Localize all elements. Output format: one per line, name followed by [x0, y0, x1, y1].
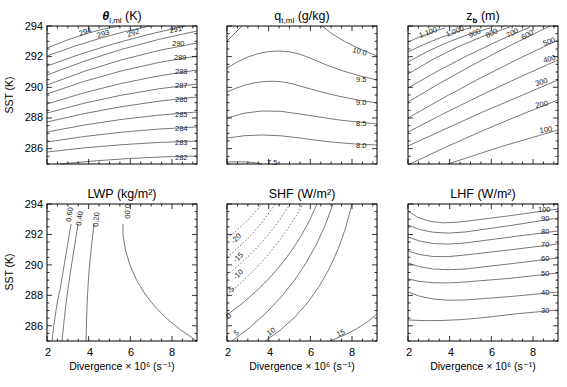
panel-title-shf: SHF (W/m²)	[269, 187, 336, 201]
panel-title-lwp: LWP (kg/m²)	[88, 187, 157, 201]
svg-text:8: 8	[349, 346, 355, 358]
panel-title-zb: zb (m)	[466, 9, 499, 25]
svg-text:60: 60	[541, 254, 549, 263]
plot-frame	[227, 204, 377, 341]
x-axis-label: Divergence × 10⁶ (s⁻¹)	[430, 360, 536, 372]
svg-text:400: 400	[542, 53, 556, 65]
svg-text:287: 287	[175, 81, 188, 90]
svg-text:4: 4	[267, 346, 273, 358]
figure-canvas: θl,ml (K) 294 293 292 291 290 289 288 28…	[0, 0, 567, 387]
x-axis-shf: 2 4 6 8 Divergence × 10⁶ (s⁻¹)	[225, 346, 355, 372]
svg-text:292: 292	[25, 50, 43, 62]
svg-text:300: 300	[534, 76, 548, 88]
panel-shf: SHF (W/m²) -20 -15 -10 -5 0 5 10 15	[224, 187, 377, 341]
svg-text:9.5: 9.5	[356, 75, 366, 84]
plot-frame	[47, 204, 197, 341]
contour-labels: 0.60 0.40 0.20 0.00	[64, 204, 132, 227]
svg-text:282: 282	[175, 153, 188, 162]
svg-text:0.60: 0.60	[64, 207, 75, 223]
panel-title-theta: θl,ml (K)	[102, 9, 142, 25]
svg-text:292: 292	[25, 228, 43, 240]
x-axis-lhf: 2 4 6 8 Divergence × 10⁶ (s⁻¹)	[406, 346, 536, 372]
plot-frame	[408, 26, 558, 164]
svg-text:6: 6	[308, 346, 314, 358]
svg-text:288: 288	[25, 289, 43, 301]
svg-text:2: 2	[225, 346, 231, 358]
svg-text:290: 290	[172, 39, 185, 48]
contour-lines	[52, 224, 197, 341]
panel-theta: θl,ml (K) 294 293 292 291 290 289 288 28…	[47, 9, 197, 164]
svg-text:290: 290	[25, 259, 43, 271]
svg-text:8: 8	[530, 346, 536, 358]
y-axis-top: 294 292 290 288 286 SST (K)	[3, 20, 43, 154]
svg-text:40: 40	[541, 288, 549, 297]
svg-text:286: 286	[25, 320, 43, 332]
panel-zb: zb (m) 1,100 1,000 900 800 700 600 500 4…	[408, 9, 558, 164]
panel-title-q: qt,ml (g/kg)	[274, 9, 329, 25]
svg-text:6: 6	[489, 346, 495, 358]
svg-text:286: 286	[25, 142, 43, 154]
svg-text:290: 290	[25, 81, 43, 93]
svg-text:6: 6	[128, 346, 134, 358]
svg-text:10: 10	[265, 325, 277, 337]
contour-lines	[408, 26, 558, 164]
panel-title-lhf: LHF (W/m²)	[450, 187, 515, 201]
x-axis-label: Divergence × 10⁶ (s⁻¹)	[69, 360, 175, 372]
svg-text:2: 2	[45, 346, 51, 358]
contour-labels: 10.0 9.5 9.0 8.5 8.0 7.5	[267, 45, 368, 167]
y-axis-bottom: 294 292 290 288 286 SST (K)	[3, 198, 43, 332]
svg-text:2: 2	[406, 346, 412, 358]
svg-text:30: 30	[541, 306, 549, 315]
svg-text:50: 50	[541, 269, 549, 278]
panel-q: qt,ml (g/kg) 10.0 9.5 9.0 8.5 8.0 7.5	[227, 9, 377, 167]
svg-text:288: 288	[175, 67, 188, 76]
svg-text:10.0: 10.0	[351, 45, 367, 57]
svg-text:0.20: 0.20	[91, 212, 101, 227]
svg-text:0: 0	[224, 311, 233, 320]
minor-ticks	[47, 26, 558, 341]
svg-text:8.0: 8.0	[356, 141, 366, 150]
svg-text:80: 80	[541, 227, 549, 236]
svg-text:8.5: 8.5	[356, 119, 366, 128]
svg-text:286: 286	[175, 95, 188, 104]
svg-text:288: 288	[25, 111, 43, 123]
svg-text:500: 500	[542, 35, 557, 48]
svg-text:289: 289	[174, 53, 187, 62]
svg-text:1,100: 1,100	[418, 25, 439, 40]
svg-text:4: 4	[87, 346, 93, 358]
y-axis-label: SST (K)	[3, 253, 15, 290]
svg-text:4: 4	[448, 346, 454, 358]
panel-lwp: LWP (kg/m²) 0.60 0.40 0.20 0.00	[47, 187, 197, 341]
svg-text:285: 285	[175, 110, 188, 119]
contour-lines	[408, 209, 558, 321]
contour-labels: -20 -15 -10 -5 0 5 10 15	[224, 231, 346, 338]
y-axis-label: SST (K)	[3, 76, 15, 113]
svg-text:100: 100	[539, 124, 553, 135]
contour-labels: 1,100 1,000 900 800 700 600 500 400 300 …	[418, 23, 557, 135]
svg-text:70: 70	[541, 240, 549, 249]
svg-text:294: 294	[25, 20, 43, 32]
svg-text:294: 294	[78, 25, 93, 37]
svg-text:9.0: 9.0	[356, 98, 366, 107]
x-axis-lwp: 2 4 6 8 Divergence × 10⁶ (s⁻¹)	[45, 346, 175, 372]
x-axis-label: Divergence × 10⁶ (s⁻¹)	[249, 360, 355, 372]
svg-text:90: 90	[541, 214, 549, 223]
svg-text:0.40: 0.40	[74, 211, 85, 227]
svg-text:-20: -20	[229, 231, 243, 245]
svg-text:284: 284	[175, 124, 188, 133]
panel-lhf: LHF (W/m²) 100 90 80 70 60 50 40 30	[408, 187, 558, 341]
svg-text:8: 8	[169, 346, 175, 358]
svg-text:283: 283	[175, 138, 188, 147]
svg-text:294: 294	[25, 198, 43, 210]
svg-text:293: 293	[96, 27, 111, 39]
svg-text:200: 200	[535, 99, 549, 110]
contour-lines	[227, 204, 377, 341]
svg-text:15: 15	[335, 327, 346, 339]
svg-text:100: 100	[538, 205, 551, 214]
